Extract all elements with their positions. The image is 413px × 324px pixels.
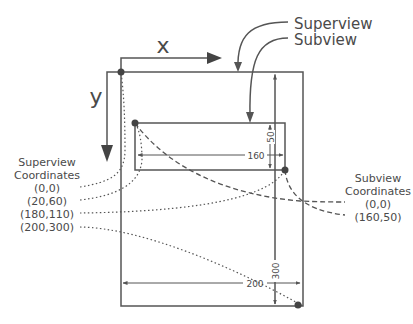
superview-callout-arrow	[238, 22, 288, 68]
y-axis-arrow	[101, 72, 121, 162]
subview-coord-0: (0,0)	[365, 198, 391, 211]
subview-coordinates-legend: Subview Coordinates (0,0) (160,50)	[345, 172, 411, 224]
subview-callout-label: Subview	[294, 31, 357, 49]
subview-callout-arrow	[250, 38, 288, 116]
subview-coords-title-1: Subview	[355, 172, 401, 185]
superview-coord-2: (180,110)	[20, 208, 74, 221]
leader-superview-20-60	[80, 123, 142, 200]
y-axis-label: y	[89, 84, 102, 109]
dim-superview-height-label: 300	[271, 262, 281, 279]
x-axis-label: x	[156, 33, 169, 58]
coordinate-diagram: x y Superview Subview 300 200 160 50	[0, 0, 413, 324]
superview-coord-1: (20,60)	[27, 195, 67, 208]
dot-superview-origin	[118, 69, 125, 76]
subview-leaders	[135, 123, 345, 215]
superview-coord-0: (0,0)	[34, 182, 60, 195]
superview-coords-title-1: Superview	[18, 156, 76, 169]
dot-superview-far-corner	[295, 302, 302, 309]
dim-subview-height-label: 50	[266, 131, 276, 143]
dot-subview-far-corner	[282, 167, 289, 174]
subview-coords-title-2: Coordinates	[345, 185, 411, 198]
leader-superview-180-110	[80, 170, 285, 213]
subview-coord-1: (160,50)	[354, 211, 401, 224]
leader-subview-0-0	[135, 123, 345, 202]
leader-subview-160-50	[285, 170, 345, 215]
superview-coordinates-legend: Superview Coordinates (0,0) (20,60) (180…	[14, 156, 80, 234]
dim-subview-width-label: 160	[247, 151, 264, 161]
dot-subview-origin	[132, 120, 139, 127]
x-axis-arrow	[121, 52, 222, 72]
superview-coord-3: (200,300)	[20, 221, 74, 234]
superview-coords-title-2: Coordinates	[14, 169, 80, 182]
subview-rect	[135, 123, 285, 170]
